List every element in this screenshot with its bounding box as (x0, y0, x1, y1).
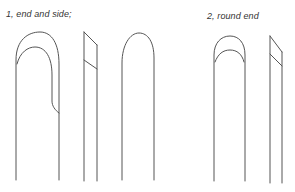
shape-round-end-profile (270, 36, 282, 183)
shape-round-end-front (214, 36, 245, 181)
shape-end-and-side-profile (84, 32, 97, 181)
shape-end-and-side-front (16, 32, 59, 180)
shape-end-and-side-back (122, 33, 154, 180)
tool-drawings (0, 0, 295, 192)
diagram-canvas: 1, end and side; 2, round end (0, 0, 295, 192)
